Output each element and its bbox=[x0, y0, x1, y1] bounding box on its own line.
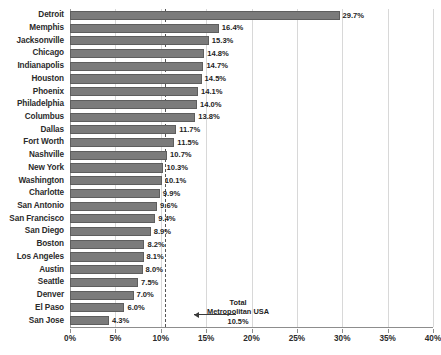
bar-row: 8.0% bbox=[70, 263, 433, 276]
x-tick-label: 15% bbox=[198, 334, 214, 343]
bar bbox=[70, 138, 174, 147]
bar bbox=[70, 252, 144, 261]
bar-value-label: 10.7% bbox=[170, 151, 192, 159]
category-label: El Paso bbox=[0, 302, 67, 315]
bar bbox=[70, 202, 157, 211]
category-label: Philadelphia bbox=[0, 98, 67, 111]
bar-value-label: 8.0% bbox=[146, 266, 163, 274]
bar-value-label: 7.0% bbox=[137, 291, 154, 299]
bar-row: 14.5% bbox=[70, 73, 433, 86]
bar bbox=[70, 303, 124, 312]
category-label: Los Angeles bbox=[0, 251, 67, 264]
x-tick-label: 5% bbox=[109, 334, 121, 343]
bar-row: 9.6% bbox=[70, 200, 433, 213]
category-label: Seattle bbox=[0, 276, 67, 289]
category-label: San Jose bbox=[0, 314, 67, 327]
bar-value-label: 14.0% bbox=[200, 101, 222, 109]
bar-value-label: 14.8% bbox=[207, 50, 229, 58]
annotation-line-3: 10.5% bbox=[178, 317, 298, 326]
bar bbox=[70, 36, 209, 45]
bar-value-label: 8.1% bbox=[147, 253, 164, 261]
bar bbox=[70, 240, 144, 249]
category-label: New York bbox=[0, 162, 67, 175]
category-label: San Francisco bbox=[0, 213, 67, 226]
bar-value-label: 7.5% bbox=[141, 279, 158, 287]
bar-value-label: 10.1% bbox=[165, 177, 187, 185]
x-tick-label: 10% bbox=[153, 334, 169, 343]
bar-row: 14.8% bbox=[70, 47, 433, 60]
bar-row: 10.3% bbox=[70, 162, 433, 175]
x-tick-label: 40% bbox=[425, 334, 441, 343]
x-tick-mark bbox=[161, 329, 162, 333]
category-label: Memphis bbox=[0, 22, 67, 35]
category-label: Columbus bbox=[0, 111, 67, 124]
bar-value-label: 10.3% bbox=[166, 164, 188, 172]
bar-row: 9.9% bbox=[70, 187, 433, 200]
bar bbox=[70, 163, 163, 172]
category-label: Chicago bbox=[0, 47, 67, 60]
category-label: Charlotte bbox=[0, 187, 67, 200]
category-label: Jacksonville bbox=[0, 34, 67, 47]
bar-row: 10.7% bbox=[70, 149, 433, 162]
bar-row: 14.7% bbox=[70, 60, 433, 73]
bar bbox=[70, 113, 195, 122]
x-tick-mark bbox=[342, 329, 343, 333]
x-tick-mark bbox=[252, 329, 253, 333]
bar bbox=[70, 316, 109, 325]
bar-row: 16.4% bbox=[70, 22, 433, 35]
x-axis-line bbox=[70, 327, 433, 328]
category-axis-labels: DetroitMemphisJacksonvilleChicagoIndiana… bbox=[0, 9, 67, 327]
bar-value-label: 29.7% bbox=[343, 12, 365, 20]
bar-value-label: 15.3% bbox=[212, 37, 234, 45]
bar-row: 29.7% bbox=[70, 9, 433, 22]
x-tick-mark bbox=[297, 329, 298, 333]
x-tick-mark bbox=[115, 329, 116, 333]
bar-row: 14.0% bbox=[70, 98, 433, 111]
bar bbox=[70, 125, 176, 134]
category-label: Phoenix bbox=[0, 85, 67, 98]
bar-value-label: 8.2% bbox=[147, 241, 164, 249]
bar-value-label: 13.8% bbox=[198, 113, 220, 121]
bar-series: 29.7%16.4%15.3%14.8%14.7%14.5%14.1%14.0%… bbox=[70, 9, 433, 327]
x-axis-ticks: 0%5%10%15%20%25%30%35%40% bbox=[70, 329, 433, 349]
bar bbox=[70, 265, 143, 274]
bar bbox=[70, 214, 155, 223]
bar-row: 10.1% bbox=[70, 174, 433, 187]
x-tick-mark bbox=[433, 329, 434, 333]
x-tick-label: 25% bbox=[289, 334, 305, 343]
bar bbox=[70, 87, 198, 96]
bar bbox=[70, 74, 202, 83]
bar-value-label: 9.6% bbox=[160, 202, 177, 210]
bar-value-label: 11.5% bbox=[177, 139, 198, 147]
category-label: Nashville bbox=[0, 149, 67, 162]
bar-value-label: 9.4% bbox=[158, 215, 175, 223]
bar bbox=[70, 100, 197, 109]
annotation-line-1: Total bbox=[178, 298, 298, 307]
category-label: Boston bbox=[0, 238, 67, 251]
bar bbox=[70, 176, 162, 185]
bar bbox=[70, 189, 160, 198]
bar bbox=[70, 24, 219, 33]
category-label: Denver bbox=[0, 289, 67, 302]
category-label: Washington bbox=[0, 174, 67, 187]
bar-value-label: 14.1% bbox=[201, 88, 223, 96]
bar-value-label: 9.9% bbox=[163, 190, 180, 198]
bar-value-label: 14.7% bbox=[206, 62, 228, 70]
category-label: Austin bbox=[0, 263, 67, 276]
category-label: Dallas bbox=[0, 123, 67, 136]
x-tick-label: 30% bbox=[334, 334, 350, 343]
category-label: Houston bbox=[0, 73, 67, 86]
x-tick-mark bbox=[70, 329, 71, 333]
bar-row: 8.2% bbox=[70, 238, 433, 251]
annotation-arrow bbox=[194, 314, 236, 315]
x-tick-label: 20% bbox=[243, 334, 259, 343]
bar bbox=[70, 151, 167, 160]
bar-row: 7.5% bbox=[70, 276, 433, 289]
plot-area: 29.7%16.4%15.3%14.8%14.7%14.5%14.1%14.0%… bbox=[70, 9, 433, 327]
gridline bbox=[433, 9, 434, 327]
bar bbox=[70, 62, 203, 71]
category-label: Fort Worth bbox=[0, 136, 67, 149]
bar-row: 11.5% bbox=[70, 136, 433, 149]
category-label: Detroit bbox=[0, 9, 67, 22]
